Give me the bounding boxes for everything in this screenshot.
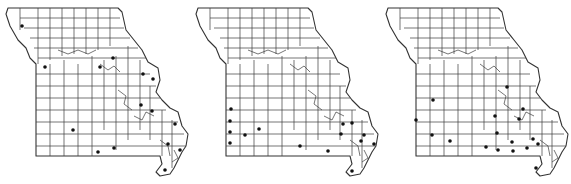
- occurrence-dot: [96, 150, 100, 154]
- occurrence-dot: [151, 77, 155, 81]
- occurrence-dot: [350, 169, 354, 173]
- county-map-1: [0, 0, 190, 184]
- occurrence-dot: [111, 56, 115, 60]
- occurrence-dot: [141, 72, 145, 76]
- occurrence-dot: [166, 142, 170, 146]
- occurrence-dot: [71, 128, 75, 132]
- occurrence-dot: [173, 122, 177, 126]
- occurrence-dot: [521, 107, 525, 111]
- occurrence-dot: [510, 140, 514, 144]
- state-outline: [196, 8, 378, 176]
- occurrence-dot: [43, 65, 47, 69]
- occurrence-dot: [372, 142, 376, 146]
- occurrence-dot: [484, 145, 488, 149]
- state-outline: [386, 8, 568, 176]
- occurrence-dot: [98, 65, 102, 69]
- occurrence-dot: [448, 139, 452, 143]
- occurrence-dot: [150, 109, 154, 113]
- occurrence-dot: [20, 24, 24, 28]
- occurrence-dot: [517, 117, 521, 121]
- occurrence-dot: [112, 146, 116, 150]
- occurrence-dot: [525, 146, 529, 150]
- occurrence-dot: [495, 131, 499, 135]
- occurrence-dot: [339, 132, 343, 136]
- occurrence-dot: [341, 122, 345, 126]
- occurrence-dot: [139, 103, 143, 107]
- occurrence-dot: [243, 133, 247, 137]
- county-map-3: [380, 0, 570, 184]
- missouri-distribution-maps: [0, 0, 571, 184]
- occurrence-dot: [496, 148, 500, 152]
- occurrence-dot: [257, 127, 261, 131]
- occurrence-dot: [163, 168, 167, 172]
- occurrence-dot: [505, 85, 509, 89]
- occurrence-dot: [534, 166, 538, 170]
- occurrence-dot: [229, 107, 233, 111]
- occurrence-dot: [430, 133, 434, 137]
- occurrence-dot: [431, 98, 435, 102]
- county-map-2: [190, 0, 380, 184]
- occurrence-dot: [531, 137, 535, 141]
- occurrence-dot: [511, 149, 515, 153]
- occurrence-dot: [362, 133, 366, 137]
- occurrence-dot: [228, 141, 232, 145]
- occurrence-dot: [228, 119, 232, 123]
- occurrence-dot: [414, 118, 418, 122]
- occurrence-dot: [178, 148, 182, 152]
- occurrence-dot: [228, 130, 232, 134]
- occurrence-dot: [536, 142, 540, 146]
- occurrence-dot: [326, 149, 330, 153]
- occurrence-dot: [493, 114, 497, 118]
- occurrence-dot: [298, 144, 302, 148]
- occurrence-dot: [350, 121, 354, 125]
- occurrence-dot: [359, 139, 363, 143]
